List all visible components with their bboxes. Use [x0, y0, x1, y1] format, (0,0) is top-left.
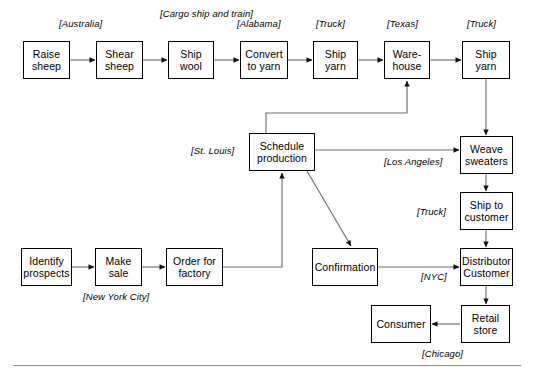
node-weave_sweaters[interactable]: Weave sweaters — [460, 136, 513, 174]
tag_new_york: [New York City] — [83, 291, 149, 302]
node-consumer[interactable]: Consumer — [371, 305, 431, 343]
tag_truck_3: [Truck] — [417, 206, 446, 217]
node-distributor[interactable]: Distributor Customer — [460, 248, 513, 286]
node-schedule_production[interactable]: Schedule production — [249, 133, 315, 171]
node-ship_wool[interactable]: Ship wool — [168, 41, 214, 79]
tag_texas: [Texas] — [387, 18, 418, 29]
tag_truck_2: [Truck] — [467, 18, 496, 29]
tag_st_louis: [St. Louis] — [191, 145, 234, 156]
tag_los_angeles: [Los Angeles] — [384, 156, 443, 167]
tag_truck_1: [Truck] — [316, 18, 345, 29]
node-ship_yarn_1[interactable]: Ship yarn — [313, 41, 358, 79]
tag_australia: [Australia] — [59, 18, 102, 29]
tag_chicago: [Chicago] — [422, 348, 463, 359]
node-make_sale[interactable]: Make sale — [95, 248, 142, 286]
node-warehouse[interactable]: Ware- house — [384, 41, 430, 79]
edge-schedule-to-warehouse — [266, 81, 407, 133]
node-convert_to_yarn[interactable]: Convert to yarn — [240, 41, 288, 79]
node-identify_prospects[interactable]: Identify prospects — [21, 248, 72, 286]
edge-schedule-to-confirmation — [307, 171, 351, 246]
edge-order-to-schedule — [223, 173, 282, 267]
tag_nyc: [NYC] — [421, 271, 447, 282]
node-shear_sheep[interactable]: Shear sheep — [96, 41, 143, 79]
node-ship_yarn_2[interactable]: Ship yarn — [462, 41, 510, 79]
node-retail_store[interactable]: Retail store — [461, 305, 510, 343]
flowchart-canvas: Raise sheepShear sheepShip woolConvert t… — [0, 0, 534, 375]
node-raise_sheep[interactable]: Raise sheep — [23, 41, 70, 79]
node-order_for_factory[interactable]: Order for factory — [166, 248, 223, 286]
bottom-divider — [13, 365, 521, 366]
node-confirmation[interactable]: Confirmation — [312, 248, 378, 286]
node-ship_to_customer[interactable]: Ship to customer — [460, 192, 513, 230]
tag_alabama: [Alabama] — [237, 18, 281, 29]
